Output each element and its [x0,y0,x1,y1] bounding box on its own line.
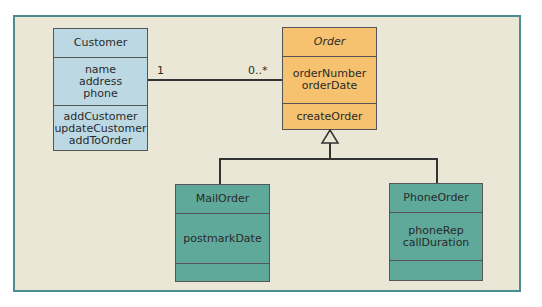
class-order-operations: createOrder [283,104,376,130]
class-phoneorder-attributes: phoneRep callDuration [390,213,482,260]
class-customer[interactable]: Customer name address phone addCustomer … [53,28,148,151]
class-name: Customer [74,37,127,49]
attribute: address [79,76,122,88]
attribute: postmarkDate [183,233,261,245]
association-line[interactable] [148,79,282,81]
class-customer-name: Customer [54,29,147,57]
class-order-attributes: orderNumber orderDate [283,57,376,103]
class-phoneorder-name: PhoneOrder [390,184,482,212]
class-order-name: Order [283,28,376,56]
class-phoneorder-operations [390,261,482,281]
operation: addToOrder [69,135,133,147]
class-mailorder-attributes: postmarkDate [176,214,269,263]
generalization-branch-mailorder [219,158,221,184]
class-name: PhoneOrder [403,192,468,204]
class-name: MailOrder [196,193,250,205]
generalization-branch-phoneorder [436,158,438,183]
class-order[interactable]: Order orderNumber orderDate createOrder [282,27,377,130]
generalization-bar [219,158,438,160]
operation: addCustomer [63,111,137,123]
attribute: callDuration [403,237,470,249]
class-phoneorder[interactable]: PhoneOrder phoneRep callDuration [389,183,483,281]
attribute: phone [83,88,117,100]
class-mailorder-operations [176,264,269,282]
attribute: phoneRep [408,225,463,237]
attribute: orderDate [302,80,358,92]
class-customer-operations: addCustomer updateCustomer addToOrder [54,106,147,151]
class-name: Order [314,36,345,48]
attribute: name [85,64,116,76]
operation: updateCustomer [54,123,146,135]
operation: createOrder [296,111,362,123]
class-customer-attributes: name address phone [54,58,147,105]
class-mailorder[interactable]: MailOrder postmarkDate [175,184,270,282]
multiplicity-order: 0..* [248,64,268,77]
multiplicity-customer: 1 [157,64,164,77]
class-mailorder-name: MailOrder [176,185,269,213]
